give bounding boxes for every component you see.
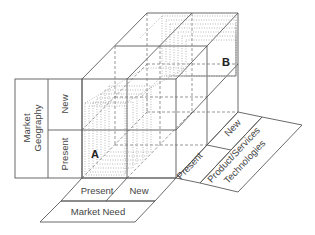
- market-geography-level-present: Present: [59, 137, 70, 170]
- market-geography-level-new: New: [59, 94, 70, 113]
- corner-label-a: A: [91, 148, 99, 160]
- market-need-level-new: New: [129, 185, 148, 196]
- product-technologies-level-present: Present: [174, 150, 205, 182]
- product-technologies-level-new: New: [222, 117, 243, 139]
- market-geography-axis: Market Geography New Present: [15, 79, 82, 178]
- market-need-level-present: Present: [81, 185, 114, 196]
- cube-diagram: A B Market Geography New Present Present…: [0, 0, 315, 235]
- subcube-a: [85, 68, 185, 175]
- cube-outline: [82, 13, 238, 178]
- market-geography-title-line1: Market: [21, 113, 32, 142]
- market-geography-title-line2: Geography: [32, 104, 43, 151]
- market-need-axis: Present New Market Need: [40, 178, 176, 222]
- product-technologies-axis: Present New Product/Services Technologie…: [174, 112, 302, 192]
- corner-label-b: B: [222, 56, 230, 68]
- market-need-title: Market Need: [71, 206, 125, 217]
